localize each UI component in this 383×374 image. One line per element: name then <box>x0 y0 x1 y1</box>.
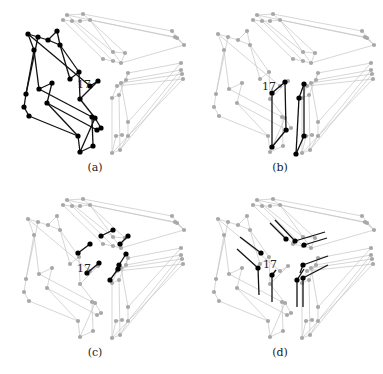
graph-edge <box>34 50 39 89</box>
graph-node <box>291 57 295 61</box>
graph-node <box>179 253 183 257</box>
graph-edge <box>237 288 287 315</box>
graph-node <box>26 217 30 221</box>
panel-c: 17 <box>22 197 186 340</box>
graph-node <box>65 13 69 17</box>
graph-node <box>300 336 304 340</box>
graph-edge <box>237 288 268 321</box>
graph-node <box>255 13 259 17</box>
graph-node <box>268 19 272 23</box>
graph-node <box>305 269 309 273</box>
graph-edge <box>237 83 242 103</box>
graph-edge <box>282 117 283 146</box>
caption-b: (b) <box>272 161 288 174</box>
graph-node <box>87 241 92 246</box>
graph-node <box>111 235 115 239</box>
graph-node <box>126 319 130 323</box>
graph-edge <box>47 288 78 321</box>
graph-node <box>285 313 289 317</box>
graph-node <box>286 264 290 268</box>
graph-edge <box>67 200 177 223</box>
graph-edge <box>250 45 269 72</box>
graph-node <box>182 43 186 47</box>
graph-node <box>77 149 82 154</box>
graph-node <box>65 198 69 202</box>
graph-node <box>301 81 306 86</box>
graph-node <box>88 203 92 207</box>
graph-node <box>240 81 244 85</box>
graph-edge <box>257 199 273 200</box>
graph-node <box>110 96 114 100</box>
graph-node <box>46 223 50 227</box>
graph-node <box>78 204 82 208</box>
graph-edge <box>78 321 80 337</box>
graph-node <box>280 300 284 304</box>
graph-edge <box>39 268 52 274</box>
graph-node <box>23 91 28 96</box>
graph-node <box>78 19 82 23</box>
graph-node <box>369 68 373 72</box>
graph-node <box>126 134 130 138</box>
upper-right-block <box>61 197 186 250</box>
graph-node <box>360 29 364 33</box>
graph-edge <box>247 31 250 45</box>
graph-node <box>95 78 100 83</box>
graph-node <box>268 204 272 208</box>
graph-node <box>110 151 114 155</box>
graph-node <box>217 114 221 118</box>
graph-node <box>120 318 124 322</box>
graph-node <box>371 77 375 81</box>
graph-node <box>110 336 114 340</box>
graph-edge <box>257 14 273 15</box>
graph-node <box>251 18 255 22</box>
figure-canvas: 17171717 <box>0 0 383 374</box>
node-label-17: 17 <box>77 78 91 91</box>
graph-edge <box>270 223 286 239</box>
graph-node <box>212 290 216 294</box>
lower-right-block <box>300 246 375 340</box>
graph-node <box>21 104 26 109</box>
graph-node <box>310 318 314 322</box>
graph-edge <box>318 255 371 321</box>
panel-a: 17 <box>21 12 186 155</box>
graph-node <box>26 113 31 118</box>
graph-edge <box>121 230 184 248</box>
graph-node <box>278 203 282 207</box>
graph-node <box>251 203 255 207</box>
graph-edge <box>92 302 93 331</box>
graph-node <box>313 51 317 55</box>
graph-node <box>75 250 80 255</box>
graph-edge <box>119 280 120 335</box>
graph-edge <box>258 268 259 295</box>
graph-node <box>313 236 317 240</box>
graph-node <box>96 260 101 265</box>
graph-node <box>110 227 115 232</box>
graph-edge <box>57 216 60 230</box>
graph-node <box>360 214 364 218</box>
graph-node <box>36 86 41 91</box>
graph-edge <box>224 50 229 89</box>
graph-edge <box>120 259 182 335</box>
graph-node <box>115 84 119 88</box>
graph-node <box>44 100 49 105</box>
graph-node <box>123 51 127 55</box>
graph-node <box>31 47 36 52</box>
graph-node <box>227 87 231 91</box>
graph-node <box>98 125 103 130</box>
graph-node <box>289 311 293 315</box>
graph-node <box>289 126 293 130</box>
graph-edge <box>311 83 318 122</box>
graph-edge <box>121 83 128 122</box>
graph-node <box>268 335 272 339</box>
graph-edge <box>282 302 283 331</box>
graph-node <box>370 257 374 261</box>
graph-edge <box>67 15 177 38</box>
graph-node <box>61 18 65 22</box>
graph-node <box>36 220 40 224</box>
graph-node <box>45 286 49 290</box>
graph-node <box>114 134 118 138</box>
graph-node <box>266 134 270 138</box>
graph-edge <box>72 21 113 61</box>
graph-edge <box>120 74 182 150</box>
graph-node <box>369 246 373 250</box>
